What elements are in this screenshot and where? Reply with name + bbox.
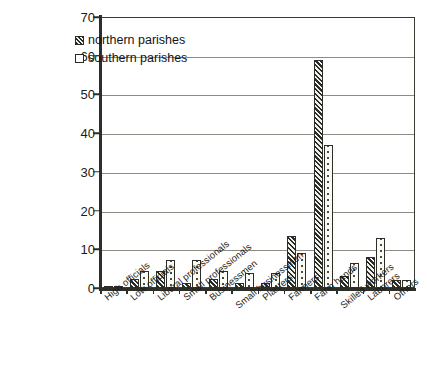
legend-swatch-northern-icon (75, 36, 84, 45)
legend-label-northern: northern parishes (88, 33, 185, 47)
y-tick-label: 30 (65, 164, 95, 179)
bar-group (363, 17, 389, 288)
bar-group (284, 17, 310, 288)
bar-northern (314, 60, 323, 288)
bar-group (310, 17, 336, 288)
y-tick-mark (93, 16, 99, 18)
bar-group (336, 17, 362, 288)
legend-label-southern: southern parishes (88, 51, 187, 65)
bar-southern (324, 145, 333, 288)
y-tick-mark (93, 55, 99, 57)
x-axis-labels: High officialsLow officialsLiberal profe… (0, 288, 427, 369)
y-tick-mark (93, 210, 99, 212)
y-tick-label: 10 (65, 242, 95, 257)
y-tick-label: 70 (65, 10, 95, 25)
y-tick-label: 40 (65, 126, 95, 141)
y-tick-mark (93, 287, 99, 289)
bar-group (389, 17, 415, 288)
y-tick-label: 50 (65, 87, 95, 102)
legend-item-northern: northern parishes (75, 33, 187, 47)
bar-group (258, 17, 284, 288)
y-tick-mark (93, 249, 99, 251)
bar-chart: 010203040506070 northern parishes southe… (0, 0, 427, 369)
y-tick-label: 20 (65, 203, 95, 218)
legend-swatch-southern-icon (75, 54, 84, 63)
y-tick-mark (93, 132, 99, 134)
y-tick-mark (93, 171, 99, 173)
legend-item-southern: southern parishes (75, 51, 187, 65)
legend: northern parishes southern parishes (75, 33, 187, 65)
y-tick-mark (93, 94, 99, 96)
